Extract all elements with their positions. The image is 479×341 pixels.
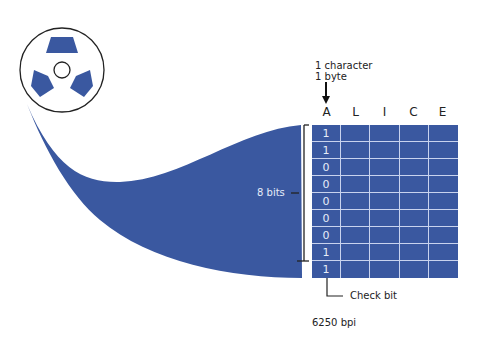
bit-cell: 0 [312,210,341,227]
column-header: I [370,105,399,119]
bit-cell [429,210,458,227]
bit-cell [341,261,370,278]
bit-cell [341,142,370,159]
column-header: A [312,105,341,119]
column-header: E [428,105,457,119]
header-line-2: 1 byte [315,71,347,82]
bit-grid: 1 1 0 0 0 0 0 1 1 [312,125,458,278]
bit-cell: 1 [312,244,341,261]
bit-cell [341,176,370,193]
bit-cell [429,159,458,176]
bit-cell [370,142,399,159]
bit-cell [429,193,458,210]
bit-cell [370,261,399,278]
bit-cell [370,159,399,176]
bit-cell: 0 [312,227,341,244]
bit-cell: 1 [312,142,341,159]
header-line-1: 1 character [315,60,372,71]
bits-label: 8 bits [257,187,285,198]
bit-cell: 0 [312,176,341,193]
bit-cell [341,125,370,142]
tape-reel-icon [20,28,104,112]
bit-cell [370,210,399,227]
check-bit-label: Check bit [350,290,397,301]
bit-cell [400,227,429,244]
bit-cell [400,244,429,261]
density-label: 6250 bpi [312,317,356,328]
column-header: C [399,105,428,119]
bit-cell: 0 [312,159,341,176]
column-headers: A L I C E [312,105,457,119]
bit-cell [370,244,399,261]
bit-cell [341,193,370,210]
bit-cell [400,142,429,159]
bit-cell [400,176,429,193]
bit-cell [429,261,458,278]
bit-cell [400,159,429,176]
column-header: L [341,105,370,119]
bit-cell [341,159,370,176]
bit-cell [400,261,429,278]
bit-cell [341,210,370,227]
bit-cell [370,176,399,193]
check-bit-cell: 1 [312,261,341,278]
bit-cell [370,193,399,210]
bit-cell [341,244,370,261]
bit-cell [429,125,458,142]
bit-cell [429,142,458,159]
bit-cell [400,210,429,227]
bit-cell [400,193,429,210]
bit-cell [341,227,370,244]
check-bit-leader [327,278,343,296]
bit-cell [429,176,458,193]
bit-cell [370,227,399,244]
bit-cell [370,125,399,142]
bit-cell: 0 [312,193,341,210]
bit-cell: 1 [312,125,341,142]
bit-cell [429,244,458,261]
arrow-down-icon [322,82,330,104]
bit-cell [400,125,429,142]
bit-cell [429,227,458,244]
